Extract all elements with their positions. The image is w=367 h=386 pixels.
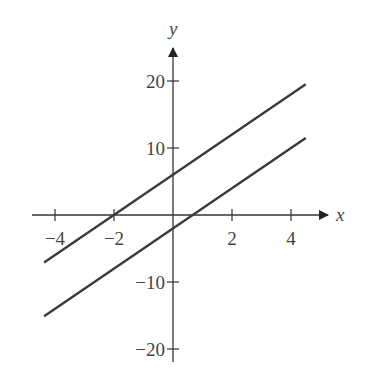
x-tick-label: 4 [286, 228, 296, 249]
x-axis-label: x [335, 204, 345, 225]
y-tick-label: 20 [146, 71, 165, 92]
line-chart: xy−4−2242010−10−20 [0, 0, 367, 386]
data-line [44, 84, 306, 262]
x-tick-label: −4 [45, 228, 66, 249]
y-tick-label: 10 [146, 138, 165, 159]
y-axis-label: y [167, 18, 178, 39]
y-tick-label: −20 [135, 339, 165, 360]
y-tick-label: −10 [135, 272, 165, 293]
axes: xy−4−2242010−10−20 [32, 18, 345, 362]
x-tick-label: −2 [104, 228, 124, 249]
x-tick-label: 2 [227, 228, 237, 249]
series-lines [44, 84, 306, 316]
data-line [44, 138, 306, 316]
